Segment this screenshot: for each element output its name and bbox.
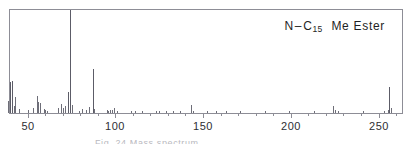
mass-spectrum-screenshot: 50100150200250 N–C15Me Ester Fig. 24 Mas… bbox=[0, 0, 413, 144]
axis-tick-minor bbox=[150, 113, 151, 116]
axis-tick-label: 100 bbox=[105, 120, 125, 132]
axis-tick-major bbox=[291, 113, 292, 118]
axis-tick-minor bbox=[273, 113, 274, 116]
title-dash: – bbox=[294, 19, 303, 33]
title-prefix: N bbox=[284, 19, 293, 33]
axis-tick-minor bbox=[133, 113, 134, 116]
axis-tick-minor bbox=[238, 113, 239, 116]
axis-tick-label: 150 bbox=[193, 120, 213, 132]
axis-tick-minor bbox=[221, 113, 222, 116]
axis-tick-minor bbox=[396, 113, 397, 116]
axis-tick-minor bbox=[168, 113, 169, 116]
axis-tick-minor bbox=[63, 113, 64, 116]
axis-tick-minor bbox=[185, 113, 186, 116]
chart-title-annotation: N–C15Me Ester bbox=[284, 19, 385, 34]
axis-tick-minor bbox=[361, 113, 362, 116]
axis-tick-minor bbox=[80, 113, 81, 116]
title-subscript: 15 bbox=[313, 24, 323, 34]
axis-tick-label: 50 bbox=[21, 120, 34, 132]
axis-tick-minor bbox=[343, 113, 344, 116]
axis-tick-label: 200 bbox=[281, 120, 301, 132]
axis-tick-minor bbox=[98, 113, 99, 116]
axis-tick-major bbox=[379, 113, 380, 118]
title-suffix: Me Ester bbox=[331, 19, 385, 33]
axis-tick-major bbox=[115, 113, 116, 118]
axis-tick-minor bbox=[308, 113, 309, 116]
axis-tick-label: 250 bbox=[369, 120, 389, 132]
bottom-caption: Fig. 24 Mass spectrum bbox=[95, 138, 199, 144]
axis-tick-minor bbox=[326, 113, 327, 116]
axis-tick-minor bbox=[45, 113, 46, 116]
axis-tick-minor bbox=[256, 113, 257, 116]
title-element: C bbox=[303, 19, 312, 33]
axis-tick-major bbox=[203, 113, 204, 118]
axis-tick-major bbox=[28, 113, 29, 118]
